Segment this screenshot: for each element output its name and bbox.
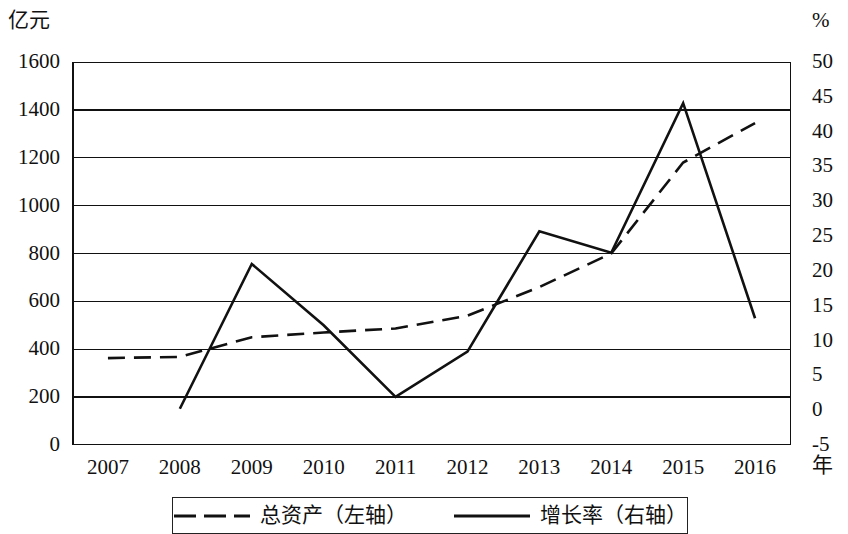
right-axis-tick-25: 25 (812, 225, 848, 246)
right-axis-tick-30: 30 (812, 190, 848, 211)
x-axis-tick-2011: 2011 (359, 457, 433, 478)
right-axis-tick-10: 10 (812, 330, 848, 351)
legend-solid-line-icon (453, 511, 531, 521)
right-axis-tick-45: 45 (812, 86, 848, 107)
chart-canvas (72, 62, 791, 445)
plot-area (72, 62, 791, 445)
left-axis-tick-200: 200 (4, 386, 60, 407)
left-axis-unit-label: 亿元 (8, 10, 50, 31)
x-axis-tick-2013: 2013 (502, 457, 576, 478)
chart-figure: 亿元 % 年 16001400120010008006004002000 504… (0, 0, 848, 534)
legend-dashed-line-icon (173, 511, 251, 521)
left-axis-tick-1000: 1000 (4, 195, 60, 216)
left-axis-tick-600: 600 (4, 290, 60, 311)
x-axis-tick-2014: 2014 (574, 457, 648, 478)
left-axis-tick-1400: 1400 (4, 99, 60, 120)
right-axis-unit-label: % (812, 10, 830, 31)
x-axis-tick-2008: 2008 (143, 457, 217, 478)
right-axis-tick-50: 50 (812, 51, 848, 72)
legend-item-growth-rate: 增长率（右轴） (453, 505, 687, 526)
left-axis-tick-800: 800 (4, 243, 60, 264)
right-axis-tick-40: 40 (812, 121, 848, 142)
legend-item-total-assets: 总资产（左轴） (173, 505, 407, 526)
right-axis-tick-0: 0 (812, 399, 848, 420)
left-axis-tick-1600: 1600 (4, 51, 60, 72)
x-axis-tick-2007: 2007 (71, 457, 145, 478)
x-axis-tick-2012: 2012 (430, 457, 504, 478)
right-axis-tick-35: 35 (812, 155, 848, 176)
left-axis-tick-0: 0 (4, 434, 60, 455)
chart-legend: 总资产（左轴） 增长率（右轴） (172, 497, 688, 534)
right-axis-tick-15: 15 (812, 295, 848, 316)
right-axis-tick--5: -5 (812, 434, 848, 455)
series-line-growth-rate (180, 103, 755, 409)
legend-label-total-assets: 总资产（左轴） (260, 505, 407, 526)
x-axis-tick-2015: 2015 (646, 457, 720, 478)
x-axis-tick-2010: 2010 (287, 457, 361, 478)
right-axis-tick-20: 20 (812, 260, 848, 281)
right-axis-tick-5: 5 (812, 364, 848, 385)
legend-label-growth-rate: 增长率（右轴） (540, 505, 687, 526)
x-axis-unit-label: 年 (812, 455, 833, 476)
x-axis-tick-2009: 2009 (215, 457, 289, 478)
left-axis-tick-1200: 1200 (4, 147, 60, 168)
x-axis-tick-2016: 2016 (718, 457, 792, 478)
left-axis-tick-400: 400 (4, 338, 60, 359)
